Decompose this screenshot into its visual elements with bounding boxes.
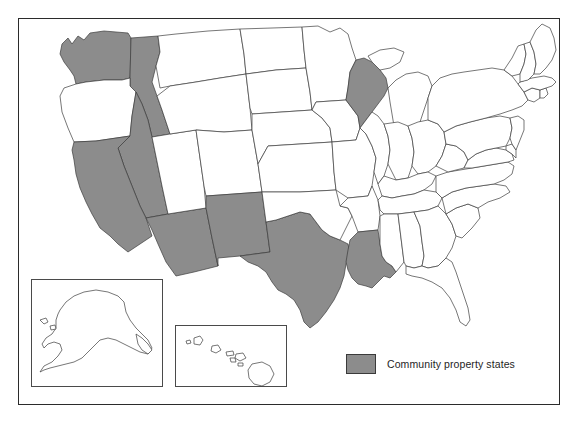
hawaii-inset-box xyxy=(175,325,287,387)
legend-swatch-community-property xyxy=(346,354,376,374)
community-property-states-map-figure: Community property states xyxy=(0,0,579,423)
map-legend: Community property states xyxy=(346,354,515,374)
alaska-inset-box xyxy=(31,279,163,387)
legend-label-community-property: Community property states xyxy=(387,358,515,370)
